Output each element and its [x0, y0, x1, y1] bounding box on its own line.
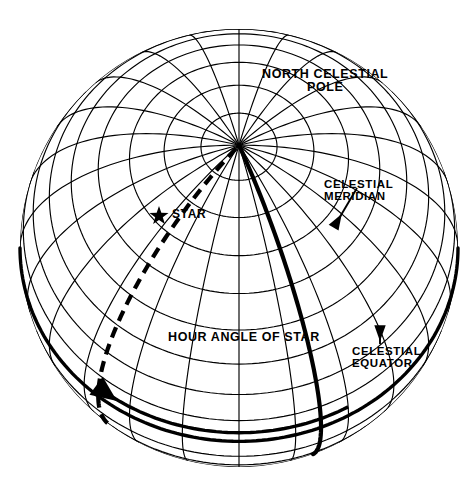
ncp-line2: POLE [262, 81, 388, 94]
meridian-line2: MERIDIAN [324, 190, 386, 202]
coordinate-grid [20, 29, 458, 467]
celestial-sphere-diagram: NORTH CELESTIAL POLE CELESTIAL MERIDIAN … [0, 0, 476, 487]
equator-line2: EQUATOR [352, 357, 413, 369]
meridian-line1: CELESTIAL [324, 178, 393, 190]
label-star: STAR [172, 208, 206, 221]
equator-line1: CELESTIAL [352, 345, 421, 357]
label-hour-angle: HOUR ANGLE OF STAR [168, 331, 320, 344]
ncp-line1: NORTH CELESTIAL [262, 67, 388, 81]
sphere-graphic [0, 0, 476, 487]
label-celestial-equator: CELESTIAL EQUATOR [352, 345, 421, 369]
label-celestial-meridian: CELESTIAL MERIDIAN [324, 178, 393, 202]
label-north-celestial-pole: NORTH CELESTIAL POLE [262, 68, 388, 94]
